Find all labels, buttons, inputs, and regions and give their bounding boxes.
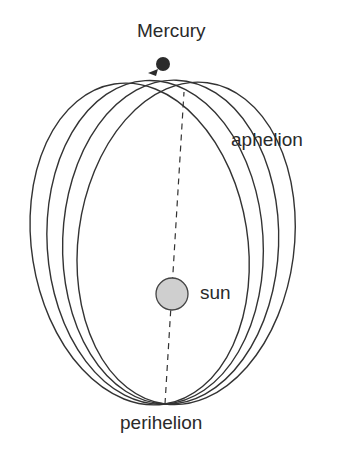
- mercury-planet-icon: [156, 57, 170, 71]
- mercury-label: Mercury: [137, 20, 206, 42]
- perihelion-label: perihelion: [120, 412, 202, 434]
- orbit-2: [37, 74, 272, 411]
- orbit-3: [57, 76, 284, 407]
- orbit-4: [58, 69, 314, 418]
- orbit-group: [8, 67, 315, 421]
- sun-icon: [156, 278, 188, 310]
- sun-label: sun: [200, 282, 231, 304]
- aphelion-label: aphelion: [231, 129, 303, 151]
- direction-arrow-icon: [148, 69, 158, 76]
- mercury-orbit-diagram: [0, 0, 363, 462]
- apsidal-line: [165, 92, 184, 404]
